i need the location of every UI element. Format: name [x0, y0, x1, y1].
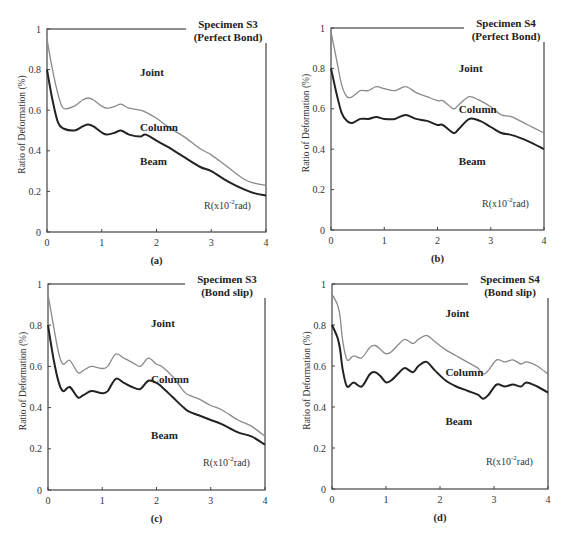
panel-caption: (b) [431, 253, 444, 265]
y-tick-label: 1 [36, 24, 41, 35]
column-beam-boundary-line [332, 325, 548, 399]
y-tick-label: 1 [320, 23, 325, 34]
x-axis-unit-label: R(x10-2rad) [482, 196, 529, 210]
x-axis-unit-label: R(x10-2rad) [486, 454, 533, 468]
x-tick-label: 3 [488, 235, 493, 246]
joint-column-boundary-line [48, 294, 265, 436]
x-tick-label: 4 [542, 235, 547, 246]
y-tick-label: 1 [321, 279, 326, 290]
x-tick-label: 2 [154, 495, 159, 506]
y-axis-label: Ratio of Deformation (%) [17, 75, 28, 173]
x-tick-label: 1 [99, 237, 104, 248]
y-tick-label: 0.8 [313, 63, 326, 74]
x-tick-label: 1 [100, 495, 105, 506]
region-label-column: Column [140, 121, 178, 133]
y-tick-label: 0.6 [313, 103, 326, 114]
y-tick-label: 0.2 [30, 443, 43, 454]
chart-subtitle: (Bond slip) [201, 286, 253, 299]
x-tick-label: 0 [46, 495, 51, 506]
y-tick-label: 0.4 [313, 144, 326, 155]
chart-title: Specimen S3 [197, 273, 257, 285]
x-tick-label: 2 [435, 235, 440, 246]
y-axis-label: Ratio of Deformation (%) [301, 74, 312, 172]
y-tick-label: 0.2 [29, 186, 42, 197]
y-tick-label: 0.6 [29, 105, 42, 116]
region-label-joint: Joint [445, 307, 469, 319]
region-label-column: Column [445, 366, 483, 378]
chart-title: Specimen S4 [480, 273, 540, 285]
y-tick-label: 0 [37, 485, 42, 496]
region-label-beam: Beam [140, 155, 167, 167]
panel-caption: (d) [434, 512, 447, 524]
region-label-column: Column [151, 373, 189, 385]
y-tick-label: 0.4 [314, 402, 327, 413]
column-beam-boundary-line [331, 68, 544, 149]
x-tick-label: 1 [384, 494, 389, 505]
x-tick-label: 2 [438, 494, 443, 505]
y-tick-label: 0 [36, 227, 41, 238]
x-axis-unit-label: R(x10-2rad) [204, 198, 251, 212]
x-tick-label: 0 [45, 237, 50, 248]
y-tick-label: 0.4 [29, 145, 42, 156]
chart-panel-a: 0123400.20.40.60.81Ratio of Deformation … [0, 0, 283, 268]
chart-subtitle: (Bond slip) [484, 286, 536, 299]
x-tick-label: 4 [264, 237, 269, 248]
column-beam-boundary-line [48, 325, 265, 445]
region-label-beam: Beam [459, 155, 486, 167]
joint-column-boundary-line [332, 294, 548, 374]
y-tick-label: 1 [37, 279, 42, 290]
x-tick-label: 0 [330, 494, 335, 505]
y-tick-label: 0.6 [314, 361, 327, 372]
x-tick-label: 3 [492, 494, 497, 505]
chart-title: Specimen S4 [476, 17, 536, 29]
x-tick-label: 2 [154, 237, 159, 248]
region-label-joint: Joint [151, 317, 175, 329]
x-tick-label: 3 [208, 495, 213, 506]
region-label-column: Column [459, 103, 497, 115]
x-tick-label: 3 [209, 237, 214, 248]
y-tick-label: 0.8 [30, 320, 43, 331]
y-tick-label: 0.2 [314, 443, 327, 454]
x-tick-label: 1 [382, 235, 387, 246]
y-tick-label: 0.8 [29, 64, 42, 75]
chart-subtitle: (Perfect Bond) [472, 30, 541, 43]
region-label-joint: Joint [140, 66, 164, 78]
chart-title: Specimen S3 [198, 18, 258, 30]
x-tick-label: 4 [546, 494, 551, 505]
y-tick-label: 0.4 [30, 402, 43, 413]
region-label-beam: Beam [151, 429, 178, 441]
y-tick-label: 0.2 [313, 184, 326, 195]
y-tick-label: 0.8 [314, 320, 327, 331]
column-beam-boundary-line [47, 70, 266, 196]
panel-caption: (c) [151, 513, 163, 525]
y-tick-label: 0 [320, 225, 325, 236]
chart-subtitle: (Perfect Bond) [194, 31, 263, 44]
y-axis-label: Ratio of Deformation (%) [18, 332, 29, 430]
y-axis-label: Ratio of Deformation (%) [302, 331, 313, 429]
x-axis-unit-label: R(x10-2rad) [203, 455, 250, 469]
chart-panel-b: 0123400.20.40.60.81Ratio of Deformation … [283, 0, 566, 268]
region-label-beam: Beam [445, 415, 472, 427]
x-tick-label: 4 [263, 495, 268, 506]
y-tick-label: 0.6 [30, 361, 43, 372]
panel-caption: (a) [150, 255, 163, 267]
region-label-joint: Joint [459, 62, 483, 74]
x-tick-label: 0 [329, 235, 334, 246]
y-tick-label: 0 [321, 484, 326, 495]
chart-panel-c: 0123400.20.40.60.81Ratio of Deformation … [0, 268, 283, 538]
chart-panel-d: 0123400.20.40.60.81Ratio of Deformation … [283, 268, 566, 538]
